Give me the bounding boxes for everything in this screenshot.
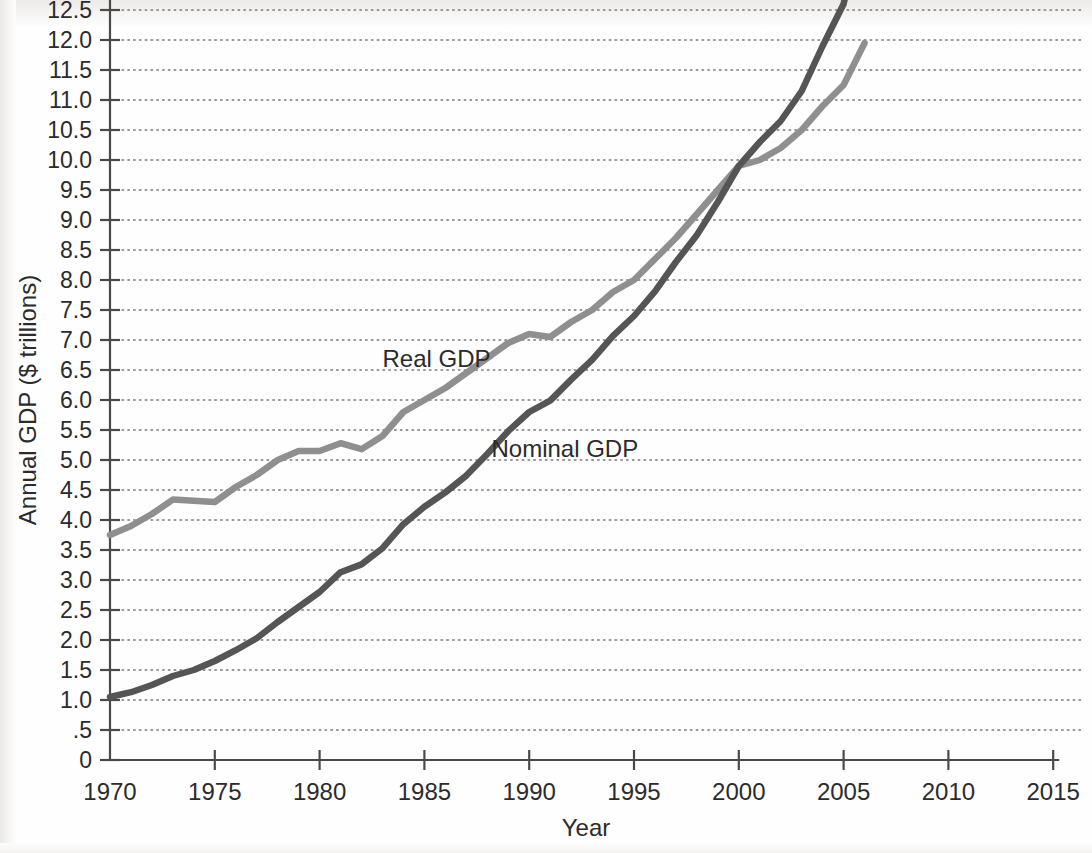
x-axis-tick-label: 2010 bbox=[922, 778, 975, 805]
series-label-real-gdp: Real GDP bbox=[382, 345, 490, 372]
y-axis-tick-label: 3.0 bbox=[60, 567, 92, 593]
x-axis-tick-label: 1970 bbox=[83, 778, 136, 805]
y-axis-tick-label: 4.5 bbox=[60, 477, 92, 503]
x-axis-tick-label: 1985 bbox=[398, 778, 451, 805]
y-axis-tick-label: 1.0 bbox=[60, 687, 92, 713]
x-axis-tick-label: 1980 bbox=[293, 778, 346, 805]
y-axis-tick-label: 9.5 bbox=[60, 177, 92, 203]
series-line-real-gdp bbox=[110, 43, 865, 535]
x-axis-tick-label: 2015 bbox=[1027, 778, 1080, 805]
y-axis-tick-label: 9.0 bbox=[60, 207, 92, 233]
y-axis-tick-label: 7.5 bbox=[60, 297, 92, 323]
x-axis-tick-label: 1975 bbox=[188, 778, 241, 805]
y-axis-tick-label: 10.5 bbox=[47, 117, 92, 143]
gridlines-group bbox=[122, 0, 1081, 730]
y-axis-tick-label: 7.0 bbox=[60, 327, 92, 353]
y-axis-tick-label: 5.5 bbox=[60, 417, 92, 443]
series-label-nominal-gdp: Nominal GDP bbox=[491, 435, 638, 462]
y-axis-tick-label: 6.5 bbox=[60, 357, 92, 383]
x-axis-tick-label: 2000 bbox=[712, 778, 765, 805]
y-axis-tick-label: 1.5 bbox=[60, 657, 92, 683]
y-axis-tick-label: 4.0 bbox=[60, 507, 92, 533]
y-axis-tick-label: 6.0 bbox=[60, 387, 92, 413]
chart-plot-area: 0.51.01.52.02.53.03.54.04.55.05.56.06.57… bbox=[0, 0, 1092, 853]
y-axis-tick-label: 10.0 bbox=[47, 147, 92, 173]
x-axis-tick-label: 2005 bbox=[817, 778, 870, 805]
x-axis-tick-label: 1995 bbox=[607, 778, 660, 805]
y-axis-tick-label: 11.0 bbox=[49, 87, 92, 113]
y-axis-tick-label: .5 bbox=[73, 717, 92, 743]
x-axis-ticks-group: 1970197519801985199019952000200520102015 bbox=[83, 750, 1080, 805]
x-axis-tick-label: 1990 bbox=[503, 778, 556, 805]
y-axis-tick-label: 8.0 bbox=[60, 267, 92, 293]
y-axis-tick-label: 8.5 bbox=[60, 237, 92, 263]
y-axis-tick-label: 3.5 bbox=[60, 537, 92, 563]
y-axis-title: Annual GDP ($ trillions) bbox=[14, 275, 41, 525]
x-axis-title: Year bbox=[562, 814, 611, 841]
y-axis-tick-label: 12.5 bbox=[47, 0, 92, 23]
y-axis-tick-label: 2.5 bbox=[60, 597, 92, 623]
y-axis-tick-label: 11.5 bbox=[49, 57, 92, 83]
y-axis-tick-label: 12.0 bbox=[47, 27, 92, 53]
y-axis-tick-label: 2.0 bbox=[60, 627, 92, 653]
y-axis-tick-label: 0 bbox=[79, 747, 92, 773]
gdp-line-chart-figure: 0.51.01.52.02.53.03.54.04.55.05.56.06.57… bbox=[0, 0, 1092, 853]
y-axis-tick-label: 5.0 bbox=[60, 447, 92, 473]
